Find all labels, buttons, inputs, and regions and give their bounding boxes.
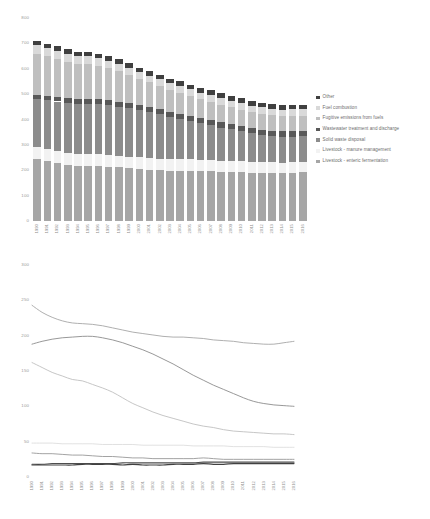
bar-column[interactable] [166,18,174,221]
bar-segment[interactable] [238,110,246,126]
bar-segment[interactable] [197,88,205,93]
bar-segment[interactable] [105,167,113,221]
bar-segment[interactable] [156,109,164,114]
bar-segment[interactable] [44,161,52,221]
bar-segment[interactable] [228,129,236,160]
bar-segment[interactable] [197,118,205,123]
bar-segment[interactable] [258,114,266,130]
bar-segment[interactable] [176,114,184,119]
bar-segment[interactable] [64,62,72,98]
bar-segment[interactable] [105,155,113,167]
bar-segment[interactable] [289,162,297,173]
bar-segment[interactable] [64,54,72,62]
bar-segment[interactable] [176,171,184,221]
bar-segment[interactable] [238,161,246,172]
bar-segment[interactable] [217,98,225,105]
bar-column[interactable] [217,18,225,221]
bar-segment[interactable] [33,54,41,95]
bar-segment[interactable] [228,107,236,124]
bar-column[interactable] [248,18,256,221]
bar-segment[interactable] [299,109,307,115]
bar-segment[interactable] [115,156,123,168]
bar-segment[interactable] [217,128,225,161]
bar-segment[interactable] [258,173,266,221]
bar-segment[interactable] [207,160,215,171]
bar-segment[interactable] [33,159,41,221]
bar-segment[interactable] [125,75,133,103]
bar-segment[interactable] [146,76,154,83]
bar-segment[interactable] [146,71,154,75]
bar-column[interactable] [228,18,236,221]
bar-segment[interactable] [84,64,92,99]
bar-column[interactable] [197,18,205,221]
bar-column[interactable] [146,18,154,221]
bar-segment[interactable] [279,163,287,174]
bar-segment[interactable] [156,75,164,79]
bar-column[interactable] [187,18,195,221]
bar-segment[interactable] [289,116,297,131]
bar-segment[interactable] [279,110,287,116]
bar-segment[interactable] [248,162,256,173]
bar-segment[interactable] [33,41,41,45]
bar-column[interactable] [176,18,184,221]
bar-segment[interactable] [248,106,256,112]
bar-column[interactable] [279,18,287,221]
bar-segment[interactable] [217,161,225,172]
bar-segment[interactable] [95,66,103,99]
bar-segment[interactable] [74,104,82,154]
bar-segment[interactable] [299,105,307,110]
bar-segment[interactable] [146,82,154,107]
bar-segment[interactable] [64,98,72,103]
bar-segment[interactable] [197,93,205,100]
bar-segment[interactable] [115,167,123,221]
bar-segment[interactable] [166,90,174,112]
bar-column[interactable] [105,18,113,221]
bar-segment[interactable] [64,153,72,165]
bar-segment[interactable] [299,131,307,136]
bar-segment[interactable] [299,116,307,131]
bar-segment[interactable] [105,68,113,100]
bar-segment[interactable] [44,44,52,48]
bar-segment[interactable] [54,151,62,163]
bar-segment[interactable] [95,58,103,66]
bar-segment[interactable] [217,105,225,123]
bar-segment[interactable] [289,131,297,136]
legend-item[interactable]: Livestock - enteric fermentation [316,159,399,164]
bar-segment[interactable] [84,56,92,64]
line-series[interactable] [32,453,294,459]
legend-item[interactable]: Fuel combustion [316,106,399,111]
bar-segment[interactable] [54,51,62,59]
bar-segment[interactable] [115,59,123,64]
bar-segment[interactable] [125,157,133,169]
bar-segment[interactable] [187,171,195,221]
bar-segment[interactable] [74,64,82,99]
bar-segment[interactable] [279,105,287,110]
bar-segment[interactable] [54,97,62,102]
bar-segment[interactable] [166,117,174,159]
bar-segment[interactable] [33,95,41,100]
bar-segment[interactable] [268,136,276,162]
bar-segment[interactable] [176,93,184,114]
bar-segment[interactable] [268,173,276,221]
bar-segment[interactable] [207,120,215,125]
bar-segment[interactable] [258,162,266,173]
bar-segment[interactable] [248,112,256,128]
bar-segment[interactable] [74,154,82,166]
bar-segment[interactable] [268,115,276,131]
bar-segment[interactable] [187,159,195,170]
bar-segment[interactable] [176,86,184,93]
bar-segment[interactable] [146,112,154,158]
bar-segment[interactable] [54,46,62,50]
bar-segment[interactable] [136,72,144,79]
bar-segment[interactable] [136,68,144,73]
bar-column[interactable] [268,18,276,221]
bar-segment[interactable] [207,95,215,102]
legend-item[interactable]: Livestock - manure management [316,148,399,153]
bar-segment[interactable] [166,171,174,221]
bar-segment[interactable] [228,101,236,107]
bar-column[interactable] [33,18,41,221]
bar-segment[interactable] [44,96,52,101]
bar-segment[interactable] [64,49,72,53]
bar-segment[interactable] [146,170,154,222]
bar-segment[interactable] [115,107,123,156]
